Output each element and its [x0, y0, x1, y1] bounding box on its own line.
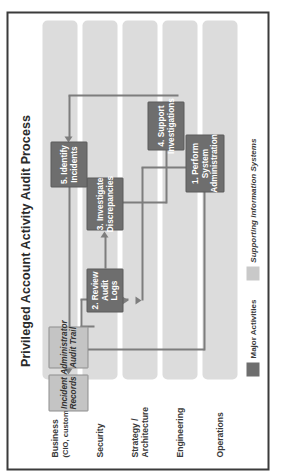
- connector-perform-to-audittrail-v2: [70, 348, 204, 350]
- node-support-investigations[interactable]: 4. Support Investigations: [147, 101, 184, 150]
- connector-audittrail-to-review-h: [80, 299, 82, 327]
- arrow-perform-to-review: [135, 296, 141, 304]
- node-support-investigations-line2: Investigations: [165, 98, 175, 154]
- node-incident-records-line2: Records: [67, 376, 77, 409]
- diagram-outer-frame: Privileged Account Activity Audit Proces…: [6, 11, 269, 470]
- swimlane-label-architecture-name: Architecture: [139, 406, 149, 457]
- connector-review-to-investigate: [104, 235, 106, 268]
- legend-label-major-activities: Major Activities: [248, 299, 257, 358]
- swimlane-label-operations-name: Operations: [214, 412, 224, 457]
- node-administrator-audit-trail-line2: Audit Trail: [67, 327, 77, 368]
- connector-support-to-identify-h: [68, 95, 70, 137]
- swimlane-operations: Operations: [202, 20, 237, 457]
- swimlane-label-strategy-name: Strategy /: [129, 418, 139, 457]
- swimlane-label-business-name: Business: [49, 419, 59, 457]
- diagram-canvas: Privileged Account Activity Audit Proces…: [0, 0, 281, 475]
- legend-item-supporting-information-systems: Supporting Information Systems: [246, 138, 259, 280]
- swimlane-label-security-name: Security: [94, 423, 104, 457]
- swimlane-label-engineering-name: Engineering: [174, 407, 184, 457]
- swimlane-band-engineering: [162, 20, 197, 379]
- swimlane-label-security: Security: [95, 379, 105, 457]
- node-identify-incidents-line2: Incidents: [68, 146, 78, 182]
- legend-item-major-activities: Major Activities: [246, 299, 259, 376]
- swimlane-label-operations: Operations: [215, 379, 225, 457]
- node-investigate-discrepancies-line2: Discrepancies: [104, 175, 114, 231]
- swimlane-label-strategy-architecture: Strategy / Architecture: [130, 379, 149, 457]
- node-administrator-audit-trail[interactable]: Administrator Audit Trail: [48, 326, 88, 368]
- node-perform-system-administration-line2: Administration: [208, 134, 218, 193]
- swimlane-label-engineering: Engineering: [175, 379, 185, 457]
- node-identify-incidents-line1: 5. Identify: [58, 145, 68, 184]
- legend-swatch-supporting-systems-icon: [246, 266, 259, 280]
- node-investigate-discrepancies-line1: 3. Investigate: [94, 177, 104, 230]
- node-perform-system-administration-line1: 1. Perform System: [189, 142, 208, 183]
- node-review-audit-logs-line2: Audit Logs: [99, 279, 118, 300]
- swimlane-engineering: Engineering: [162, 20, 197, 457]
- node-support-investigations-line1: 4. Support: [155, 105, 165, 146]
- node-review-audit-logs[interactable]: 2. Review Audit Logs: [86, 268, 123, 312]
- legend-swatch-major-activities-icon: [246, 362, 259, 376]
- node-administrator-audit-trail-line1: Administrator: [58, 320, 68, 374]
- legend: Major Activities Supporting Information …: [246, 124, 259, 376]
- swimlane-band-strategy-architecture: [122, 20, 157, 379]
- node-identify-incidents[interactable]: 5. Identify Incidents: [50, 141, 87, 187]
- swimlane-strategy-architecture: Strategy / Architecture: [122, 20, 157, 457]
- connector-perform-to-review-h: [141, 167, 143, 300]
- node-incident-records-line1: Incident: [58, 377, 68, 409]
- rotated-diagram-frame: Privileged Account Activity Audit Proces…: [0, 0, 281, 475]
- node-perform-system-administration[interactable]: 1. Perform System Administration: [185, 134, 224, 192]
- node-investigate-discrepancies[interactable]: 3. Investigate Discrepancies: [86, 177, 123, 230]
- node-review-audit-logs-line1: 2. Review: [89, 271, 99, 309]
- page-title: Privileged Account Activity Audit Proces…: [18, 13, 32, 468]
- node-incident-records[interactable]: Incident Records: [48, 374, 88, 411]
- connector-support-to-identify-v: [68, 94, 178, 96]
- legend-label-supporting-information-systems: Supporting Information Systems: [248, 138, 257, 262]
- swimlane-band-operations: [202, 20, 237, 379]
